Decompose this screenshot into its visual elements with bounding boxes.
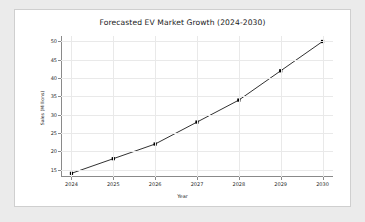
y-axis-tick xyxy=(58,60,61,61)
y-axis-tick-label: 30 xyxy=(51,112,57,118)
y-axis-tick-label: 25 xyxy=(51,130,57,136)
x-axis-tick xyxy=(197,177,198,180)
x-gridline xyxy=(239,36,240,177)
plot-area: 1520253035404550202420252026202720282029… xyxy=(61,36,333,177)
y-axis-tick xyxy=(58,151,61,152)
plot-inner: 1520253035404550202420252026202720282029… xyxy=(61,36,333,177)
y-axis-tick-label: 50 xyxy=(51,38,57,44)
x-gridline xyxy=(281,36,282,177)
y-axis-tick-label: 40 xyxy=(51,75,57,81)
y-axis-tick-label: 20 xyxy=(51,148,57,154)
x-gridline xyxy=(155,36,156,177)
x-gridline xyxy=(323,36,324,177)
x-axis-tick xyxy=(113,177,114,180)
x-axis-tick-label: 2027 xyxy=(191,181,204,187)
x-axis-tick xyxy=(281,177,282,180)
chart-title: Forecasted EV Market Growth (2024-2030) xyxy=(15,18,350,27)
x-axis-tick xyxy=(323,177,324,180)
x-axis-tick-label: 2025 xyxy=(107,181,120,187)
x-axis-tick xyxy=(239,177,240,180)
x-axis-tick-label: 2029 xyxy=(274,181,287,187)
x-gridline xyxy=(71,36,72,177)
y-axis-label: Sales (Millions) xyxy=(40,91,45,125)
chart-figure: Forecasted EV Market Growth (2024-2030) … xyxy=(15,10,350,206)
x-axis-tick xyxy=(155,177,156,180)
y-axis-tick xyxy=(58,41,61,42)
x-axis-tick-label: 2026 xyxy=(149,181,162,187)
y-axis-tick xyxy=(58,170,61,171)
x-axis-tick-label: 2024 xyxy=(65,181,78,187)
x-axis-tick-label: 2028 xyxy=(232,181,245,187)
y-axis-tick xyxy=(58,115,61,116)
y-axis-tick-label: 35 xyxy=(51,93,57,99)
x-axis-label: Year xyxy=(15,193,350,199)
y-axis-tick xyxy=(58,78,61,79)
x-gridline xyxy=(197,36,198,177)
y-axis-tick xyxy=(58,96,61,97)
y-axis-tick-label: 15 xyxy=(51,167,57,173)
page-background: Forecasted EV Market Growth (2024-2030) … xyxy=(0,0,365,222)
y-axis-tick xyxy=(58,133,61,134)
x-axis-tick-label: 2030 xyxy=(316,181,329,187)
x-axis-tick xyxy=(71,177,72,180)
x-gridline xyxy=(113,36,114,177)
y-axis-tick-label: 45 xyxy=(51,57,57,63)
chart-card: Forecasted EV Market Growth (2024-2030) … xyxy=(14,9,351,207)
